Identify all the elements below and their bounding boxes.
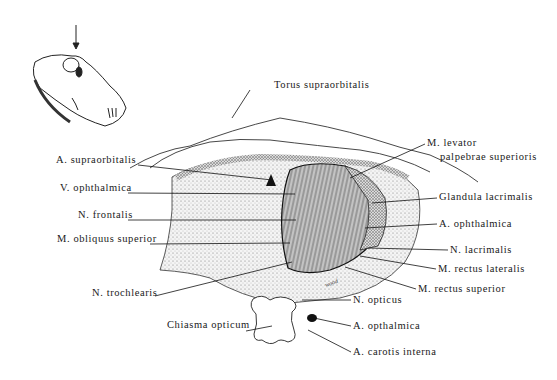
label-n-frontalis: N. frontalis (78, 210, 133, 221)
skull-inset-icon (33, 25, 126, 126)
label-n-lacrimalis: N. lacrimalis (450, 245, 512, 256)
label-n-trochlearis: N. trochlearis (92, 288, 158, 299)
label-n-opticus: N. opticus (353, 295, 402, 306)
label-m-obliquus-superior: M. obliquus superior (57, 234, 157, 245)
label-v-ophthalmica: V. ophthalmica (60, 183, 132, 194)
label-palpebrae-superioris: palpebrae superioris (440, 152, 537, 163)
anatomical-figure: wood A. supraorbitalis V. ophthalmica N.… (0, 0, 557, 380)
label-m-rectus-lateralis: M. rectus lateralis (438, 264, 525, 275)
label-m-rectus-superior: M. rectus superior (418, 284, 506, 295)
label-torus-supraorbitalis: Torus supraorbitalis (274, 80, 370, 91)
label-m-levator: M. levator (427, 138, 477, 149)
label-a-ophthalmica: A. ophthalmica (439, 219, 512, 230)
label-glandula-lacrimalis: Glandula lacrimalis (439, 192, 533, 203)
label-a-opthalmica: A. opthalmica (353, 321, 420, 332)
label-a-supraorbitalis: A. supraorbitalis (56, 155, 136, 166)
label-a-carotis-interna: A. carotis interna (353, 347, 436, 358)
label-chiasma-opticum: Chiasma opticum (167, 320, 250, 331)
